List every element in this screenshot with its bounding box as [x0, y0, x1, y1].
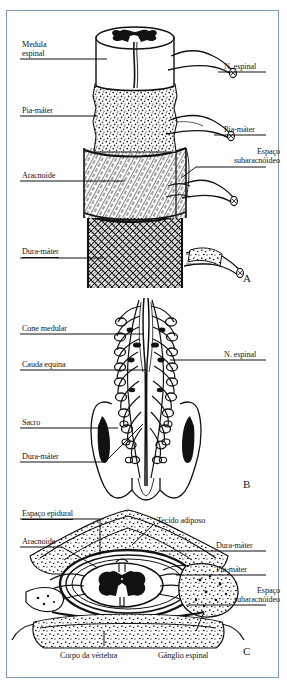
- label-dura-mater-a: Dura-máter: [22, 247, 59, 258]
- label-nervo-espinal-b: N. espinal: [224, 350, 256, 360]
- label-corpo-da-vertebra: Corpo da vértebra: [60, 651, 117, 661]
- pia-mater-segment-a: [93, 84, 177, 152]
- panel-letter-b: B: [243, 478, 250, 490]
- label-pia-mater-c: Pia-máter: [216, 565, 247, 575]
- label-espaco-epidural: Espaço epidural: [22, 509, 73, 520]
- label-medula-espinal-line1: Medula: [22, 40, 46, 49]
- panel-letter-a: A: [243, 272, 251, 284]
- label-dura-mater-b: Dura-máter: [22, 452, 59, 462]
- dura-mater-segment-a: [88, 214, 182, 288]
- label-tecido-adiposo: Tecido adiposo: [157, 516, 205, 526]
- label-medula-espinal: Medula espinal: [22, 40, 46, 59]
- label-espaco-subaracnoideo-a-line1: Espaço: [208, 147, 280, 156]
- label-aracnoide-c: Aracnoide: [22, 537, 55, 547]
- label-pia-mater-left-a: Pia-máter: [22, 106, 53, 116]
- figure-stage: Medula espinal Pia-máter Aracnoide Dura-…: [0, 0, 287, 688]
- label-ganglio-espinal: Gânglio espinal: [158, 651, 208, 661]
- label-espaco-subaracnoideo-a: Espaço subaracnóideo: [208, 147, 280, 166]
- label-aracnoide-a: Aracnoide: [22, 171, 55, 181]
- label-sacro: Sacro: [22, 418, 40, 428]
- label-espaco-subaracnoideo-a-line2: subaracnóideo: [208, 156, 280, 165]
- panel-letter-c: C: [243, 645, 250, 657]
- label-medula-espinal-line2: espinal: [22, 49, 46, 58]
- panel-a-artwork: [0, 0, 287, 688]
- label-cone-medular: Cone medular: [22, 324, 67, 334]
- panel-c-artwork: [12, 510, 244, 648]
- label-espaco-subaracnoideo-c-line2: subaracnóideo: [206, 595, 280, 604]
- medula-espinal-cylinder: [96, 27, 174, 91]
- label-espaco-subaracnoideo-c: Espaço subaracnóideo: [206, 586, 280, 605]
- label-dura-mater-c: Dura-máter: [216, 541, 253, 551]
- label-pia-mater-right-a: Pia-máter: [224, 125, 255, 135]
- panel-b-artwork: [91, 298, 201, 500]
- label-cauda-equina: Cauda equina: [22, 360, 66, 370]
- label-espaco-subaracnoideo-c-line1: Espaço: [206, 586, 280, 595]
- label-nervo-espinal-a: N. espinal: [224, 62, 256, 72]
- aracnoide-segment-a: [84, 148, 186, 220]
